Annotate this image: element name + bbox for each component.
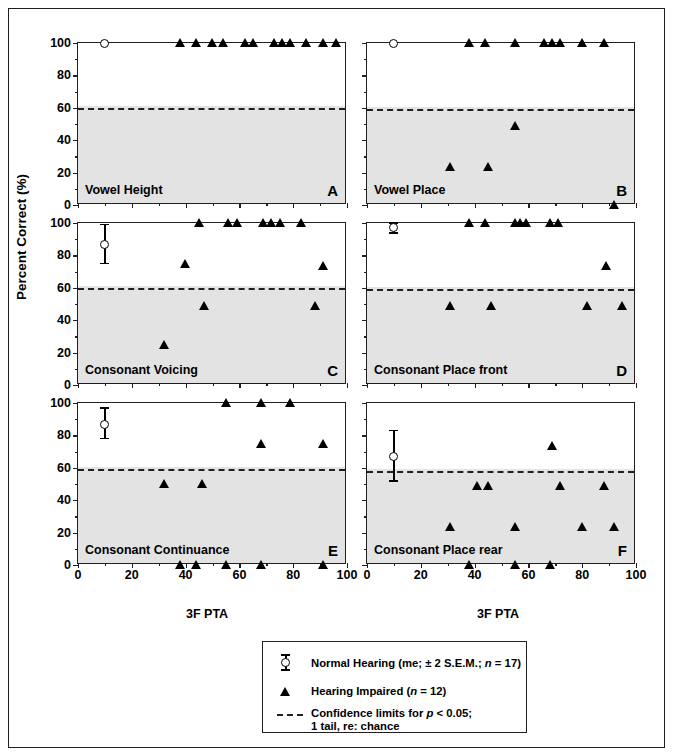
data-point-hearing-impaired [609,522,619,531]
data-point-hearing-impaired [191,560,201,569]
data-point-hearing-impaired [445,162,455,171]
data-point-hearing-impaired [191,38,201,47]
y-tick [75,516,78,517]
x-axis-title-left: 3F PTA [186,607,228,621]
x-tick [609,563,610,566]
x-tick [132,383,133,388]
y-tick [362,43,367,44]
panel-letter: B [616,182,627,199]
error-bar-cap [389,232,398,234]
x-tick [475,383,476,388]
y-tick [73,403,78,404]
data-point-hearing-impaired [480,38,490,47]
y-tick [364,156,367,157]
x-tick [186,203,187,208]
x-tick [105,563,106,566]
data-point-hearing-impaired [256,439,266,448]
x-tick [394,563,395,566]
x-tick [213,563,214,566]
data-point-hearing-impaired [275,218,285,227]
panel-letter: F [618,542,627,559]
data-point-hearing-impaired [199,301,209,310]
y-tick [75,419,78,420]
y-tick [364,484,367,485]
y-tick [73,353,78,354]
data-point-hearing-impaired [577,38,587,47]
data-point-hearing-impaired [599,481,609,490]
x-tick [448,383,449,386]
y-tick [362,533,367,534]
x-tick [582,203,583,208]
data-point-hearing-impaired [318,560,328,569]
data-point-hearing-impaired [486,301,496,310]
confidence-limit-line [78,469,345,471]
data-point-hearing-impaired [218,38,228,47]
x-tick [421,203,422,208]
confidence-limit-line [78,288,345,290]
data-point-normal-hearing [100,240,109,249]
x-tick [239,203,240,208]
x-tick [394,383,395,386]
y-tick [75,369,78,370]
y-tick [364,272,367,273]
x-tick [132,203,133,208]
y-tick [364,189,367,190]
x-tick [159,563,160,566]
x-tick [502,383,503,386]
x-tick [320,203,321,206]
data-point-hearing-impaired [285,38,295,47]
y-tick-label: 0 [64,198,71,212]
data-point-hearing-impaired [553,218,563,227]
data-point-hearing-impaired [601,261,611,270]
data-point-normal-hearing [100,420,109,429]
panel-d: Consonant Place frontD [366,222,635,384]
confidence-limit-line [367,109,634,111]
y-tick [75,484,78,485]
x-tick [159,383,160,386]
x-tick [609,383,610,386]
y-tick [362,468,367,469]
panel-title: Consonant Place rear [374,543,503,557]
y-tick [73,288,78,289]
data-point-hearing-impaired [159,479,169,488]
y-tick [362,403,367,404]
data-point-hearing-impaired [510,121,520,130]
x-tick [528,203,529,208]
y-tick-label: 20 [57,346,71,360]
y-tick [364,239,367,240]
legend-label-normal-hearing: Normal Hearing (me; ± 2 S.E.M.; n = 17) [311,657,521,670]
y-tick-label: 100 [50,396,71,410]
panel-b: Vowel PlaceB [366,42,635,204]
data-point-hearing-impaired [301,38,311,47]
y-tick-label: 40 [57,313,71,327]
y-tick-label: 20 [57,166,71,180]
x-tick [555,203,556,206]
y-tick [73,500,78,501]
data-point-hearing-impaired [464,218,474,227]
y-tick [364,452,367,453]
data-point-hearing-impaired [547,441,557,450]
error-bar-cap [389,430,398,432]
x-tick [502,203,503,206]
x-tick-label: 100 [337,568,358,582]
data-point-hearing-impaired [464,560,474,569]
x-tick [448,563,449,566]
y-tick [73,75,78,76]
x-tick-label: 20 [414,568,428,582]
x-tick [555,383,556,386]
confidence-limit-line [78,108,345,110]
y-tick [75,189,78,190]
data-point-hearing-impaired [318,439,328,448]
y-tick-label: 80 [57,68,71,82]
open-circle-errorbar-icon [275,653,305,675]
x-tick [502,563,503,566]
panel-title: Consonant Place front [374,363,507,377]
y-tick [364,92,367,93]
x-tick [347,203,348,208]
error-bar-cap [100,224,109,226]
data-point-hearing-impaired [175,560,185,569]
y-tick [75,549,78,550]
confidence-limit-line [367,471,634,473]
figure-root: Percent Correct (%) 020406080100Vowel He… [0,0,673,756]
panel-title: Consonant Voicing [85,363,198,377]
